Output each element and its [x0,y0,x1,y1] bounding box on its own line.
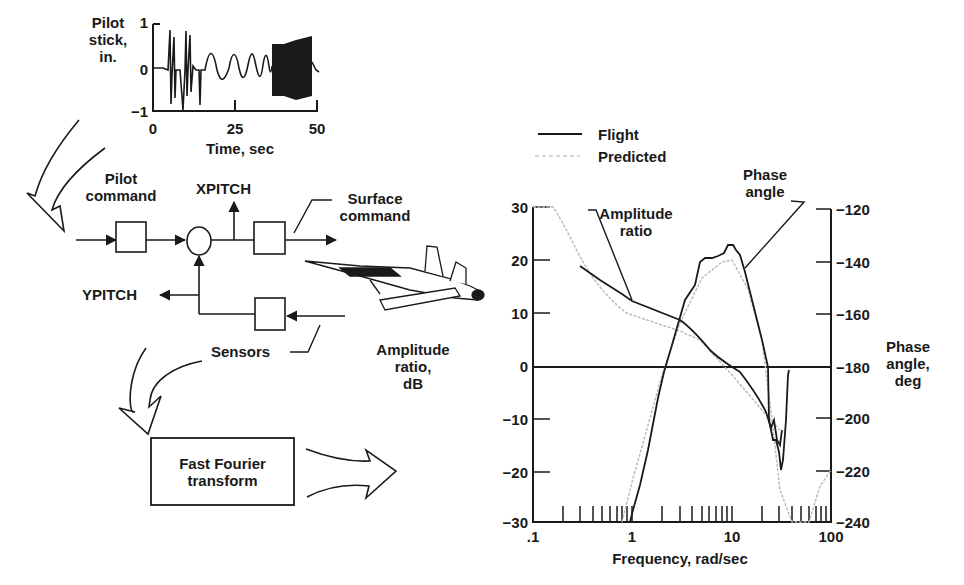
right-axis-label-line3: deg [868,372,948,389]
predicted-phase-line [622,260,831,522]
left-tick-neg20: −20 [488,464,528,481]
left-tick-20: 20 [488,252,528,269]
right-axis-label: Phase angle, deg [868,338,948,389]
stick-signal [153,30,272,110]
surface-command-label: Surface command [334,190,416,224]
flight-phase-line [630,245,789,522]
right-tick-neg200: −200 [836,410,870,427]
x-tick-0.1: .1 [523,528,543,545]
right-axis-label-line1: Phase [868,338,948,355]
xpitch-label: XPITCH [196,180,251,197]
stick-ytick-bottom: −1 [120,103,148,120]
hollow-arrow-sensors-to-fft [119,361,202,434]
phase-annotation-line1: Phase [735,166,795,183]
sensor-block [255,298,285,330]
predicted-amplitude-line [533,207,780,430]
right-tick-neg120: −120 [836,201,870,218]
surface-command-line2: command [334,207,416,224]
phase-annotation-line2: angle [735,183,795,200]
x-axis-label: Frequency, rad/sec [580,550,780,567]
x29-aircraft-icon [305,246,484,310]
pilot-command-label: Pilot command [80,170,162,204]
left-tick-10: 10 [488,305,528,322]
left-axis-label-line3: dB [368,375,458,392]
stick-xtick-50: 50 [302,120,332,137]
right-tick-neg220: −220 [836,463,870,480]
right-axis-label-line2: angle, [868,355,948,372]
phase-angle-annotation: Phase angle [735,166,795,200]
hollow-arrow-fft-to-plot [306,449,396,498]
stick-xtick-0: 0 [140,120,166,137]
amplitude-annotation-line1: Amplitude [596,205,676,222]
right-tick-neg180: −180 [836,359,870,376]
legend-predicted-label: Predicted [598,148,666,165]
left-tick-0: 0 [488,358,528,375]
right-tick-neg140: −140 [836,254,870,271]
left-axis-label-line2: ratio, [368,358,458,375]
amplitude-ratio-annotation: Amplitude ratio [596,205,676,239]
surface-command-line1: Surface [334,190,416,207]
stick-ytick-mid: 0 [128,61,148,78]
ypitch-label: YPITCH [82,286,137,303]
pilot-filter-block [116,222,146,252]
x-tick-100: 100 [813,528,849,545]
left-axis-label-line1: Amplitude [368,341,458,358]
legend-flight-label: Flight [598,126,639,143]
x-tick-1: 1 [622,528,642,545]
controller-block [254,222,285,254]
stick-xlabel: Time, sec [180,140,300,157]
stick-plot [153,24,319,112]
figure-canvas [0,0,964,585]
x-tick-10: 10 [719,528,745,545]
summing-junction [187,227,211,255]
left-tick-neg10: −10 [488,411,528,428]
right-tick-neg160: −160 [836,306,870,323]
left-tick-30: 30 [488,199,528,216]
stick-ytick-top: 1 [128,14,148,31]
fft-label-line1: Fast Fourier [151,455,294,472]
left-axis-label: Amplitude ratio, dB [368,341,458,392]
stick-ylabel-line2: stick, [78,31,138,48]
amplitude-annotation-line2: ratio [596,222,676,239]
pilot-command-line2: command [80,187,162,204]
hollow-arrow-sensors-to-fft-a [130,348,146,412]
stick-xtick-25: 25 [220,120,250,137]
pilot-command-line1: Pilot [80,170,162,187]
flight-amplitude-line [580,266,782,445]
left-tick-neg30: −30 [488,514,528,531]
fft-label-line2: transform [151,472,294,489]
fft-label: Fast Fourier transform [151,455,294,489]
sensors-label: Sensors [211,343,270,360]
